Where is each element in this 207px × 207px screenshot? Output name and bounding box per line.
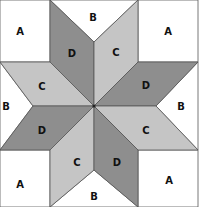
label-b-bottom: B: [90, 191, 98, 202]
label-b-left: B: [2, 101, 10, 112]
label-c-left-top: C: [38, 81, 45, 92]
label-d-top-left: D: [68, 48, 76, 59]
label-a-bottom-right: A: [165, 175, 173, 186]
label-c-top-right: C: [112, 47, 119, 58]
label-a-bottom-left: A: [16, 179, 24, 190]
piece-a-bottom-left: [0, 150, 50, 207]
label-a-top-right: A: [164, 26, 172, 37]
label-d-right-top: D: [142, 80, 150, 91]
center-point: [92, 104, 95, 107]
eight-point-star-quilt-block: AAAABBBBDCCDDCCD: [0, 0, 207, 207]
label-b-top: B: [89, 12, 97, 23]
label-d-left-bottom: D: [38, 125, 46, 136]
label-a-top-left: A: [16, 26, 24, 37]
label-b-right: B: [177, 101, 185, 112]
label-c-right-bottom: C: [142, 125, 149, 136]
label-c-bottom-left: C: [73, 157, 80, 168]
label-d-bottom-right: D: [113, 157, 121, 168]
piece-a-top-left: [0, 0, 50, 62]
